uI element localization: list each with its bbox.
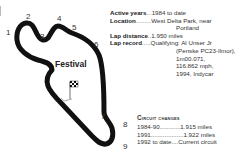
lap-record-line: 1m00.071, — [110, 55, 237, 63]
circuit-changes: Circuit changes 1984-90............1.915… — [137, 114, 217, 146]
corner-9-label: 9 — [123, 143, 127, 151]
corner-8-label: 8 — [123, 121, 127, 129]
checkered-flag-icon — [70, 81, 78, 99]
lap-record-row: Lap record.....Qualifying: Al Unser Jr — [110, 39, 237, 47]
corner-7-label: 7 — [101, 113, 105, 121]
circuit-info: Active years...1984 to date Location....… — [110, 9, 237, 77]
corner-6-label: 6 — [94, 41, 98, 49]
corner-1-label: 1 — [6, 29, 10, 37]
circuit-changes-title: Circuit changes — [137, 114, 217, 122]
corner-2-label: 2 — [26, 13, 30, 21]
corner-3-label: 3 — [40, 33, 44, 41]
lap-record-line: 116.862 mph, — [110, 62, 237, 70]
change-row: 1984-90............1.915 miles — [137, 123, 217, 131]
lap-distance-row: Lap distance..1.950 miles — [110, 32, 237, 40]
location-row: Location.........West Delta Park, near — [110, 17, 237, 25]
lap-record-line: (Penske PC23-Ilmor), — [110, 47, 237, 55]
corner-4-label: 4 — [57, 15, 61, 23]
circuit-name: Festival — [55, 59, 87, 69]
lap-record-line: 1994, Indycar — [110, 70, 237, 78]
active-years-row: Active years...1984 to date — [110, 9, 237, 17]
change-row: 1991...................1.922 miles — [137, 131, 217, 139]
location-row-cont: Portland — [110, 24, 237, 32]
change-row: 1992 to date....Current circuit — [137, 138, 217, 146]
corner-5-label: 5 — [72, 24, 76, 32]
